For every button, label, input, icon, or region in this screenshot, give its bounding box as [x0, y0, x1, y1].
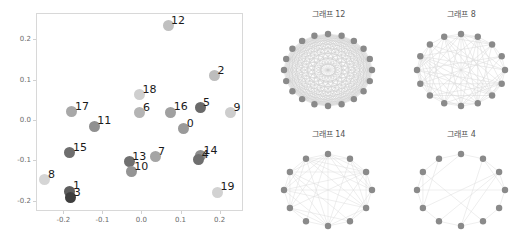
graph-cell-bottom-right: 그래프 4 — [395, 120, 528, 240]
scatter-point-label: 2 — [217, 65, 224, 76]
x-axis-tick-label: 0.1 — [172, 216, 190, 224]
x-axis-tick-label: 0.2 — [211, 216, 229, 224]
y-axis-tick-mark — [33, 160, 36, 161]
graph-diagram-bottom-right — [395, 140, 528, 240]
scatter-point-label: 18 — [143, 84, 157, 95]
y-axis-tick-label: -0.2 — [3, 197, 31, 205]
graph-title-bottom-right: 그래프 4 — [395, 128, 528, 139]
x-axis-tick-mark — [220, 211, 221, 214]
x-axis-tick-mark — [181, 211, 182, 214]
scatter-point-label: 6 — [143, 102, 150, 113]
scatter-point-label: 8 — [48, 169, 55, 180]
x-axis-tick-label: 0.0 — [132, 216, 150, 224]
scatter-point-label: 3 — [74, 187, 81, 198]
x-axis-tick-label: -0.1 — [93, 216, 111, 224]
graph-title-top-right: 그래프 8 — [395, 8, 528, 19]
scatter-point-label: 4 — [202, 149, 209, 160]
y-axis-tick-label: -0.1 — [3, 156, 31, 164]
scatter-point-label: 12 — [171, 15, 185, 26]
y-axis-tick-mark — [33, 201, 36, 202]
graph-grid-panel: 그래프 12 그래프 8 그래프 14 그래프 4 — [262, 0, 529, 240]
scatter-point-label: 19 — [221, 181, 235, 192]
y-axis-tick-label: 0.2 — [3, 35, 31, 43]
x-axis-tick-mark — [102, 211, 103, 214]
x-axis-tick-label: -0.2 — [54, 216, 72, 224]
scatter-point-label: 0 — [187, 118, 194, 129]
graph-diagram-bottom-left — [262, 140, 395, 240]
graph-cell-top-left: 그래프 12 — [262, 0, 395, 120]
scatter-point-label: 9 — [234, 102, 241, 113]
scatter-point-label: 16 — [174, 101, 188, 112]
scatter-point-label: 17 — [75, 101, 89, 112]
graph-title-top-left: 그래프 12 — [262, 8, 395, 19]
scatter-point-label: 11 — [97, 115, 111, 126]
y-axis-tick-mark — [33, 80, 36, 81]
x-axis-tick-mark — [141, 211, 142, 214]
graph-title-bottom-left: 그래프 14 — [262, 128, 395, 139]
x-axis-tick-mark — [63, 211, 64, 214]
graph-diagram-top-right — [395, 20, 528, 124]
scatter-point-label: 5 — [203, 97, 210, 108]
scatter-point-label: 10 — [134, 161, 148, 172]
scatter-plot-panel: -0.2-0.10.00.10.2 0.20.10.0-0.1-0.2 1221… — [0, 0, 262, 240]
graph-cell-bottom-left: 그래프 14 — [262, 120, 395, 240]
scatter-point-label: 7 — [158, 146, 165, 157]
y-axis-tick-label: 0.0 — [3, 116, 31, 124]
y-axis-tick-mark — [33, 39, 36, 40]
figure-root: -0.2-0.10.00.10.2 0.20.10.0-0.1-0.2 1221… — [0, 0, 529, 240]
scatter-point-label: 15 — [73, 142, 87, 153]
graph-diagram-top-left — [262, 20, 395, 124]
y-axis-tick-label: 0.1 — [3, 76, 31, 84]
y-axis-tick-mark — [33, 120, 36, 121]
graph-cell-top-right: 그래프 8 — [395, 0, 528, 120]
